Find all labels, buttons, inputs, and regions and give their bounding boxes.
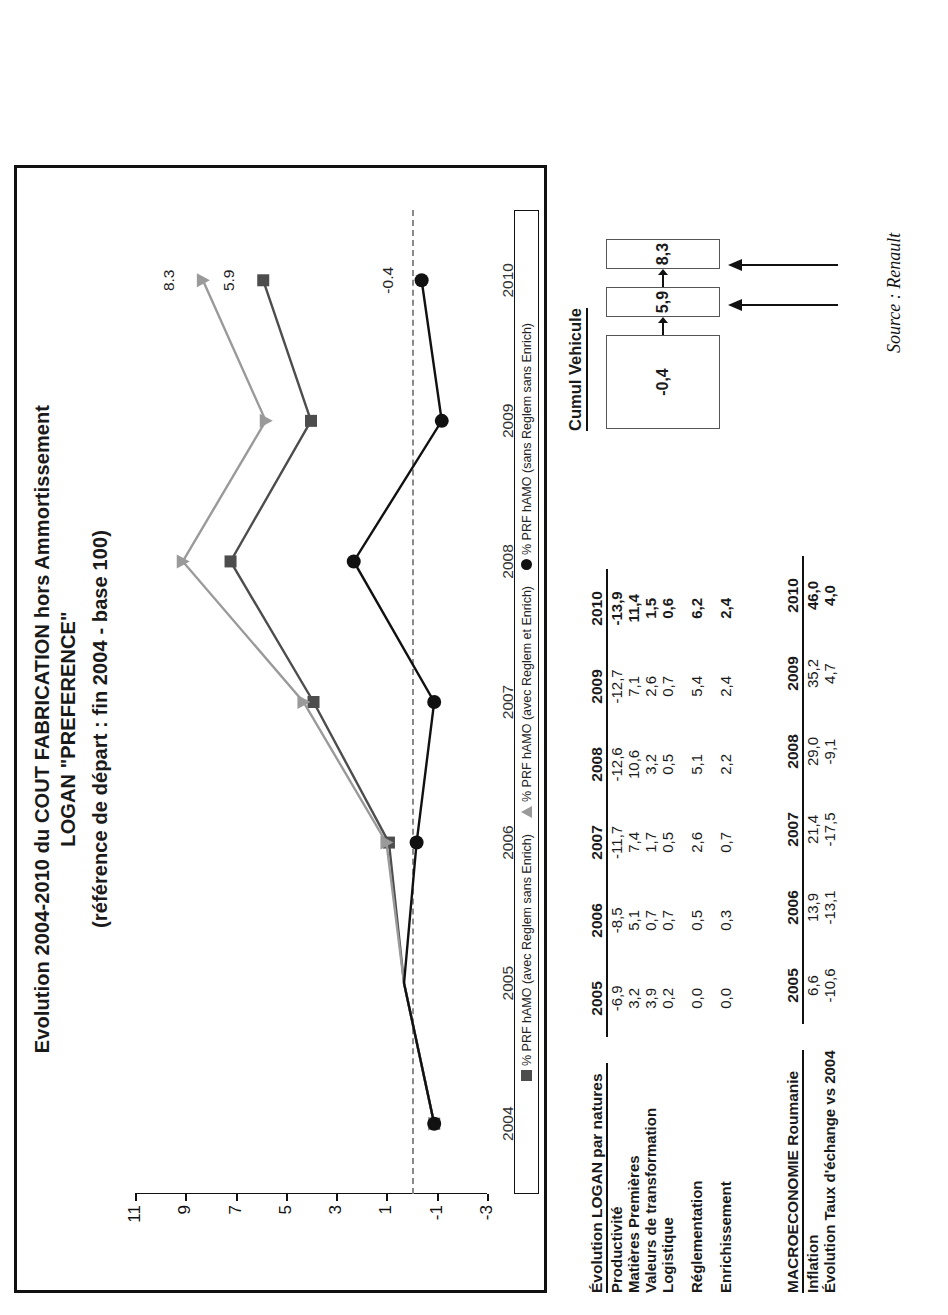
table-cell: 6,6: [803, 946, 821, 1024]
legend-item[interactable]: % PRF hAMO (avec Reglem et Enrich): [520, 586, 534, 818]
table-cell: 35,2: [803, 634, 821, 712]
cumul-vehicule-title: Cumul Vehicule: [566, 308, 588, 431]
data-tables: Évolution LOGAN par natures 2005 2006 20…: [566, 165, 896, 1293]
cumul-boxes: -0,4 5,9 8,3: [606, 239, 720, 429]
table-cell: 0,7: [659, 881, 676, 959]
row-label: Valeurs de transformation: [642, 1063, 659, 1293]
row-label: Inflation: [803, 1050, 821, 1293]
table-cell: 3,9: [642, 959, 659, 1037]
data-point-marker: [225, 555, 237, 567]
table-cell: 0,6: [659, 569, 676, 647]
triangle-marker-icon: [521, 806, 532, 818]
table-cell: 0,0: [717, 959, 734, 1037]
y-tick: [386, 1194, 388, 1201]
col-header: 2010: [784, 556, 803, 634]
table-cell: 0,5: [659, 803, 676, 881]
cumul-box-3: 8,3: [606, 239, 720, 269]
col-header: 2005: [588, 959, 607, 1037]
spacer-cell: [688, 1037, 705, 1063]
y-tick-label: -1: [427, 1205, 447, 1220]
spacer-cell: [821, 1024, 838, 1050]
table-row: Enrichissement0,00,30,72,22,42,4: [717, 569, 734, 1293]
table-cell: 1,7: [642, 803, 659, 881]
y-tick-label: 7: [226, 1205, 246, 1214]
table-row-gap: [676, 569, 688, 1293]
y-tick-label: 11: [125, 1205, 145, 1223]
chart-panel: Evolution 2004-2010 du COUT FABRICATION …: [14, 165, 547, 1293]
table-cell: 0,7: [642, 881, 659, 959]
table-cell: 2,6: [642, 647, 659, 725]
table-macro: MACROECONOMIE Roumanie 2005 2006 2007 20…: [784, 556, 838, 1293]
y-tick: [437, 1194, 439, 1201]
row-label: Productivité: [607, 1063, 625, 1293]
chart-title-line2: LOGAN "PREFERENCE": [55, 168, 81, 1290]
table-cell: -8,5: [607, 881, 625, 959]
table-cell: -12,7: [607, 647, 625, 725]
spacer-cell: [625, 1037, 642, 1063]
y-tick: [135, 1194, 137, 1201]
table-cell: 0,3: [717, 881, 734, 959]
data-point-label: 5.9: [220, 270, 238, 292]
series-lines: [135, 210, 487, 1194]
table-cell: 0,5: [659, 725, 676, 803]
table-row-gap: [705, 569, 717, 1293]
source-note: Source : Renault: [884, 233, 905, 353]
row-label: Évolution Taux d'échange vs 2004: [821, 1050, 838, 1293]
plot-area: 1197531-1-3 2004200520062007200820092010…: [135, 210, 487, 1194]
table-cell: 5,4: [688, 647, 705, 725]
legend-label: % PRF hAMO (avec Reglem sans Enrich): [520, 834, 534, 1066]
col-header: 2009: [784, 634, 803, 712]
chart-title-line1: Evolution 2004-2010 du COUT FABRICATION …: [31, 405, 53, 1053]
table-cell: 10,6: [625, 725, 642, 803]
chart-title-line3: (référence de départ : fin 2004 - base 1…: [87, 168, 113, 1290]
table-cell: 0,5: [688, 881, 705, 959]
data-point-marker: [410, 836, 424, 850]
spacer-cell: [588, 1037, 607, 1063]
table-cell: 2,2: [717, 725, 734, 803]
col-header: 2005: [784, 946, 803, 1024]
table-cell: 21,4: [803, 790, 821, 868]
y-tick-label: -3: [477, 1205, 497, 1220]
legend-item[interactable]: % PRF hAMO (sans Reglem sans Enrich): [520, 323, 534, 570]
row-label: Logistique: [659, 1063, 676, 1293]
data-point-marker: [435, 414, 449, 428]
spacer-cell: [659, 1037, 676, 1063]
table-cell: 3,2: [642, 725, 659, 803]
y-tick-label: 1: [376, 1205, 396, 1214]
legend-label: % PRF hAMO (avec Reglem et Enrich): [520, 586, 534, 802]
table-row: Évolution LOGAN par natures 2005 2006 20…: [588, 569, 607, 1293]
table-cell: 4,7: [821, 634, 838, 712]
table-cell: 1,5: [642, 569, 659, 647]
table-cell: -10,6: [821, 946, 838, 1024]
col-header: 2008: [784, 712, 803, 790]
spacer-cell: [717, 1037, 734, 1063]
legend-item[interactable]: % PRF hAMO (avec Reglem sans Enrich): [520, 834, 534, 1081]
chart-legend: % PRF hAMO (avec Reglem sans Enrich)% PR…: [514, 210, 539, 1194]
table-cell: -6,9: [607, 959, 625, 1037]
table-cell: 2,6: [688, 803, 705, 881]
col-header: 2006: [588, 881, 607, 959]
y-tick: [185, 1194, 187, 1201]
y-tick: [286, 1194, 288, 1201]
data-point-marker: [260, 414, 273, 428]
row-label: Réglementation: [688, 1063, 705, 1293]
col-header: 2006: [784, 868, 803, 946]
table-cell: 5,1: [688, 725, 705, 803]
table-cell: 46,0: [803, 556, 821, 634]
row-label: Enrichissement: [717, 1063, 734, 1293]
col-header: 2008: [588, 725, 607, 803]
arrow-right-icon-2: [606, 269, 720, 287]
col-header: 2007: [784, 790, 803, 868]
data-point-marker: [347, 554, 361, 568]
table-cell: -13,9: [607, 569, 625, 647]
table-cell: 3,2: [625, 959, 642, 1037]
y-tick: [336, 1194, 338, 1201]
table-cell: 11,4: [625, 569, 642, 647]
data-point-marker: [415, 273, 429, 287]
table-cell: 7,4: [625, 803, 642, 881]
y-tick: [236, 1194, 238, 1201]
spacer-cell: [803, 1024, 821, 1050]
y-tick-label: 9: [175, 1205, 195, 1214]
table-row: Évolution Taux d'échange vs 2004-10,6-13…: [821, 556, 838, 1293]
data-point-label: 8.3: [160, 270, 178, 292]
